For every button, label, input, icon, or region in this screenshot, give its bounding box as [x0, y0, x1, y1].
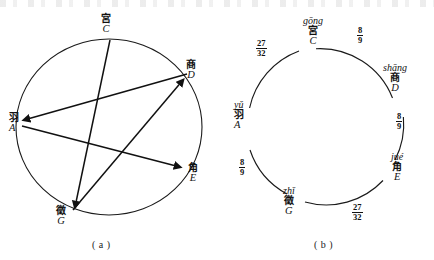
node-letter-d-b: D [391, 83, 399, 94]
arc-e-to-g [305, 181, 383, 205]
node-letter-c-b: C [309, 36, 316, 47]
figure-root: 宮 C 商 D 羽 A 角 E 徵 G gōng 宮 C shāng [0, 0, 434, 260]
node-label-zhi-b: zhǐ 徵 G [283, 186, 295, 217]
ratio-a-c: 27 32 [256, 39, 267, 58]
ratio-a-c-denominator: 32 [256, 48, 267, 58]
ratio-d-e-denominator: 9 [396, 121, 402, 131]
arc-c-to-d [316, 49, 393, 98]
node-letter-e-b: E [394, 172, 400, 183]
ratio-a-c-numerator: 27 [256, 39, 267, 48]
ratio-g-a: 8 9 [239, 158, 245, 177]
ratio-c-d-denominator: 9 [357, 35, 363, 45]
ratio-c-d: 8 9 [357, 26, 363, 45]
ratio-g-a-denominator: 9 [239, 167, 245, 177]
caption-b: ( b ) [314, 239, 333, 250]
node-label-yu-b: yǔ 羽 A [234, 100, 244, 131]
ratio-e-g-numerator: 27 [352, 203, 363, 212]
ratio-d-e: 8 9 [396, 112, 402, 131]
ratio-e-g: 27 32 [352, 203, 363, 222]
node-letter-g-b: G [285, 206, 293, 217]
caption-a: ( a ) [92, 239, 111, 250]
arc-a-to-c [250, 51, 299, 108]
ratio-e-g-denominator: 32 [352, 212, 363, 222]
ratio-d-e-numerator: 8 [396, 112, 402, 121]
diagram-b-canvas [0, 0, 434, 260]
node-label-shang-b: shāng 商 D [383, 63, 407, 94]
node-letter-a-b: A [234, 120, 240, 131]
arc-g-to-a [250, 150, 287, 194]
node-label-jue-b: jué 角 E [391, 152, 403, 183]
node-label-gong-b: gōng 宮 C [303, 16, 323, 47]
ratio-c-d-numerator: 8 [357, 26, 363, 35]
ratio-g-a-numerator: 8 [239, 158, 245, 167]
